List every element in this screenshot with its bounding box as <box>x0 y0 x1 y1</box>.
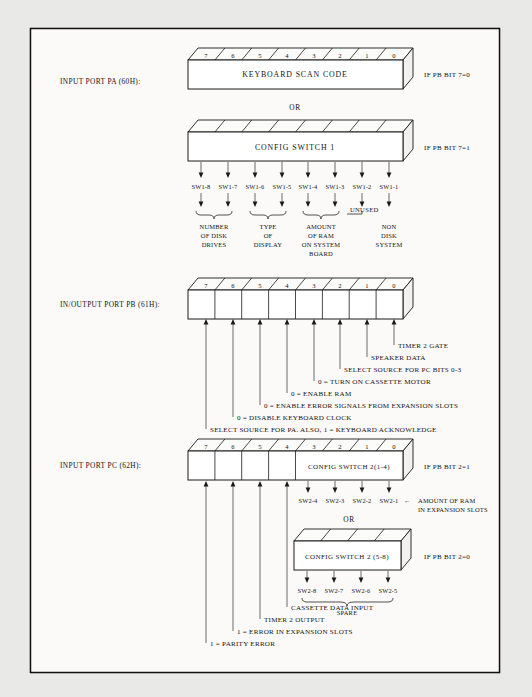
pc-callout-bit7: 1 = PARITY ERROR <box>210 640 275 648</box>
grp2-l1: OF RAM <box>308 232 334 239</box>
sw1-8-label: SW1-8 <box>192 183 211 190</box>
grp0-l2: DRIVES <box>202 241 227 248</box>
sw2-note-line0: AMOUNT OF RAM <box>418 497 475 504</box>
sw1-1-label: SW1-1 <box>380 183 399 190</box>
grp2-l3: BOARD <box>309 250 333 257</box>
pa-or-label: OR <box>289 103 300 112</box>
pb-callout-bit3: 0 = TURN ON CASSETTE MOTOR <box>318 378 431 386</box>
sw1-7-label: SW1-7 <box>219 183 239 190</box>
grp2-l0: AMOUNT <box>306 223 336 230</box>
pa-config-condition: IF PB BIT 7=1 <box>424 144 470 152</box>
sw2-6-label: SW2-6 <box>352 587 371 594</box>
pb-callout-bit4: 0 = ENABLE RAM <box>291 390 352 398</box>
sw2-7-label: SW2-7 <box>325 587 345 594</box>
diagram-page: INPUT PORT PA (60H): 7 6 5 4 3 2 1 0 KEY… <box>0 0 532 697</box>
grp3-l0: NON <box>382 223 397 230</box>
grp1-l2: DISPLAY <box>254 241 282 248</box>
pc-callout-bit4: CASSETTE DATA INPUT <box>291 604 374 612</box>
pa-unused-label: UNUSED <box>350 206 379 213</box>
pc-bit-1: 1 <box>365 443 368 450</box>
pa-bit-2: 2 <box>338 52 341 59</box>
sw2-4-label: SW2-4 <box>299 497 319 504</box>
sw2-1-label: SW2-1 <box>380 497 399 504</box>
grp0-l0: NUMBER <box>199 223 228 230</box>
grp1-l0: TYPE <box>259 223 276 230</box>
sw1-6-label: SW1-6 <box>246 183 265 190</box>
pa-scan-code-box: 7 6 5 4 3 2 1 0 KEYBOARD SCAN CODE <box>188 48 413 89</box>
pc-callout-bit6: 1 = ERROR IN EXPANSION SLOTS <box>237 628 353 636</box>
port-pb-label: IN/OUTPUT PORT PB (61H): <box>60 300 160 309</box>
pa-group-number-of-disk-drives: NUMBER OF DISK DRIVES <box>199 223 228 248</box>
pc-alt-box: CONFIG SWITCH 2 (5-8) <box>294 529 411 570</box>
pb-callout-bit0: TIMER 2 GATE <box>398 342 448 350</box>
pb-bit-2: 2 <box>338 282 341 289</box>
sw2-5-label: SW2-5 <box>379 587 398 594</box>
pc-box: 7 6 5 4 3 2 1 0 CONFIG SWITCH 2(1-4) <box>188 439 413 480</box>
sw1-5-label: SW1-5 <box>273 183 292 190</box>
pb-bit-1: 1 <box>365 282 368 289</box>
sw1-4-label: SW1-4 <box>299 183 319 190</box>
grp2-l2: ON SYSTEM <box>302 241 340 248</box>
pa-config-switch-box: CONFIG SWITCH 1 <box>188 120 413 161</box>
pb-callout-bit7: SELECT SOURCE FOR PA. ALSO, 1 = KEYBOARD… <box>210 426 437 434</box>
port-pc-label: INPUT PORT PC (62H): <box>60 461 141 470</box>
pb-callout-bit5: 0 = ENABLE ERROR SIGNALS FROM EXPANSION … <box>264 402 458 410</box>
pa-config-caption: CONFIG SWITCH 1 <box>255 143 335 152</box>
sw2-note-line1: IN EXPANSION SLOTS <box>418 506 488 513</box>
pc-callout-bit5: TIMER 2 OUTPUT <box>264 616 325 624</box>
pc-or-label: OR <box>343 515 354 524</box>
sw1-3-label: SW1-3 <box>326 183 345 190</box>
sw2-8-label: SW2-8 <box>298 587 317 594</box>
pb-callout-bit6: 0 = DISABLE KEYBOARD CLOCK <box>237 414 352 422</box>
pa-scan-code-caption: KEYBOARD SCAN CODE <box>242 70 347 79</box>
port-pa-label: INPUT PORT PA (60H): <box>60 77 141 86</box>
pc-condition-lower: IF PB BIT 2=0 <box>424 553 470 561</box>
pc-config-caption: CONFIG SWITCH 2(1-4) <box>308 463 390 471</box>
pa-bit-1: 1 <box>365 52 368 59</box>
io-port-diagram: INPUT PORT PA (60H): 7 6 5 4 3 2 1 0 KEY… <box>0 0 532 697</box>
sw2-note-arrow: ← <box>404 497 411 504</box>
sw1-2-label: SW1-2 <box>353 183 372 190</box>
pb-box: 7 6 5 4 3 2 1 0 <box>188 278 413 319</box>
sw2-2-label: SW2-2 <box>353 497 372 504</box>
pc-alt-caption: CONFIG SWITCH 2 (5-8) <box>305 553 389 561</box>
pb-callout-bit2: SELECT SOURCE FOR PC BITS 0-3 <box>344 366 461 374</box>
pc-bit-2: 2 <box>338 443 341 450</box>
grp0-l1: OF DISK <box>201 232 228 239</box>
grp3-l2: SYSTEM <box>376 241 403 248</box>
grp1-l1: OF <box>264 232 273 239</box>
grp3-l1: DISK <box>381 232 397 239</box>
sw2-3-label: SW2-3 <box>326 497 345 504</box>
pa-scan-condition: IF PB BIT 7=0 <box>424 71 470 79</box>
pc-condition-upper: IF PB BIT 2=1 <box>424 463 470 471</box>
pb-callout-bit1: SPEAKER DATA <box>371 354 426 362</box>
